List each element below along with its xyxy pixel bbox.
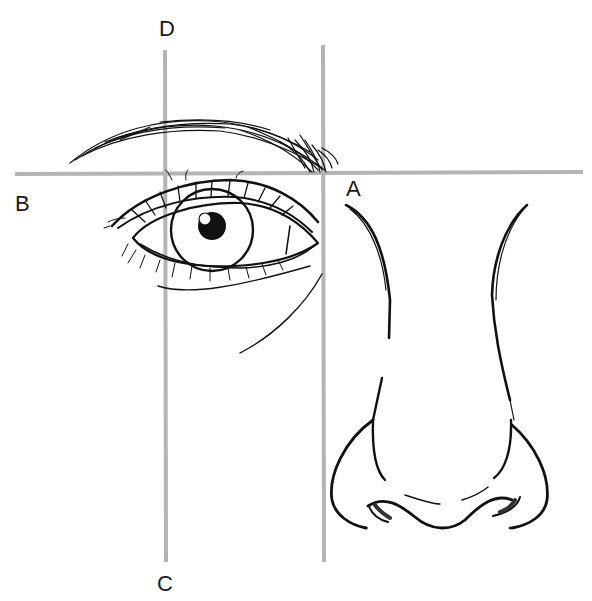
eye-drawing	[104, 170, 322, 353]
label-a: A	[346, 178, 361, 200]
diagram-canvas	[0, 0, 592, 601]
label-c: C	[157, 573, 173, 595]
eyebrow-drawing	[70, 120, 338, 172]
horizontal-guide-line	[15, 172, 583, 174]
guide-lines	[15, 45, 583, 562]
label-d: D	[159, 18, 175, 40]
label-b: B	[15, 193, 30, 215]
nose-drawing	[331, 205, 547, 529]
vertical-guide-line-a	[323, 45, 324, 562]
